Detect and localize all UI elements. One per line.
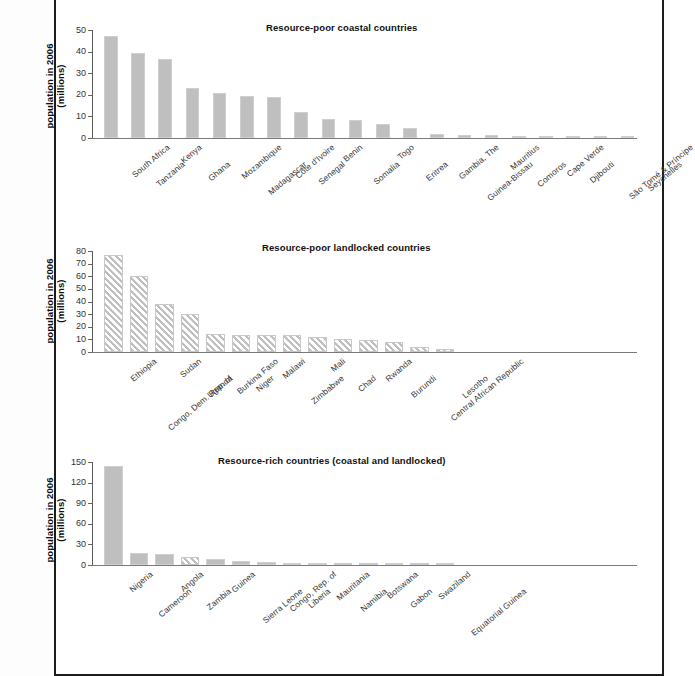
bar [349,120,363,138]
bar [403,128,417,138]
y-axis-tick-label: 60 [56,519,86,528]
y-axis-tick-label: 30 [56,310,86,319]
bar [267,97,281,138]
x-axis-line [92,138,637,139]
x-axis-label: Djibouti [588,159,616,185]
y-axis-tick-label: 40 [56,297,86,306]
plot-area: 0306090120150 [92,462,637,565]
x-axis-label: Gabon [408,586,434,610]
x-axis-label: Mali [329,356,348,374]
bar [257,562,276,565]
x-axis-label: Ethiopia [129,356,159,384]
x-axis-label: Namibia [358,586,388,614]
bar [376,124,390,138]
bar [410,563,429,565]
y-axis-tick [88,524,92,525]
bar [385,563,404,565]
x-axis-label: Senegal [316,159,347,187]
x-axis-label: Swaziland [436,569,472,602]
x-axis-label: Uganda [205,373,234,400]
bar [257,335,276,352]
y-axis-tick-label: 90 [56,499,86,508]
y-axis-tick [88,276,92,277]
y-axis-tick [88,30,92,31]
y-axis-tick-label: 70 [56,259,86,268]
x-axis-label: Gambia, The [457,142,501,181]
bar [206,334,225,352]
y-axis-tick [88,116,92,117]
y-axis-line [92,462,93,565]
bar [213,93,227,138]
bar [130,276,149,353]
y-axis-tick-label: 10 [56,112,86,121]
bar [130,553,149,565]
bar [308,337,327,352]
y-axis-tick [88,264,92,265]
y-axis-tick [88,73,92,74]
x-axis-label: Somalia [371,159,401,187]
bar [539,136,553,138]
y-axis-tick [88,327,92,328]
bar [104,36,118,138]
bar [359,340,378,352]
bar [308,563,327,565]
bar [621,136,635,138]
x-axis-label: Zambia [204,586,232,612]
bar [240,96,254,138]
bar [181,314,200,352]
bar [359,563,378,565]
x-axis-label: Rwanda [384,356,414,384]
y-axis-label: population in 2006 (millions) [44,26,66,146]
chart-resource-poor-coastal: population in 2006 (millions) Resource-p… [0,0,668,215]
bar [485,135,499,138]
plot-area: 01020304050607080 [92,251,637,352]
y-axis-tick-label: 0 [56,134,86,143]
x-axis-labels: NigeriaCameroonAngolaZambiaGuineaSierra … [92,567,637,647]
y-axis-tick [88,462,92,463]
bar [186,88,200,138]
bar [104,466,123,565]
y-axis-tick-label: 50 [56,284,86,293]
y-axis-tick-label: 0 [56,348,86,357]
chart-resource-poor-landlocked: population in 2006 (millions) Resource-p… [0,215,668,430]
x-axis-label: Mozambique [239,142,283,181]
x-axis-label: Benin [341,142,364,164]
bar [181,557,200,565]
y-axis-tick-label: 20 [56,90,86,99]
bar [430,134,444,138]
y-axis-line [92,251,93,352]
bar [158,59,172,138]
x-axis-label: Ghana [206,159,232,183]
y-axis-tick [88,544,92,545]
y-axis-tick [88,251,92,252]
x-axis-label: Sudan [178,356,203,380]
bar [206,559,225,565]
y-axis-tick-label: 60 [56,272,86,281]
x-axis-label: Chad [356,373,378,394]
x-axis-label: Nigeria [128,569,155,594]
bar [410,347,429,352]
x-axis-label: Eritrea [424,159,450,183]
bar [594,136,608,138]
bar [131,53,145,138]
bar [458,135,472,138]
bar [283,335,302,352]
y-axis-tick-label: 20 [56,322,86,331]
bar [512,136,526,138]
x-axis-label: Guinea [230,569,258,594]
bar [283,563,302,565]
y-axis-tick [88,52,92,53]
y-axis-tick [88,95,92,96]
y-axis-tick-label: 40 [56,47,86,56]
bar [232,335,251,352]
x-axis-label: Togo [395,142,416,162]
x-axis-label: Kenya [179,142,204,165]
x-axis-label: Equatorial Guinea [469,586,528,638]
y-axis-tick-label: 80 [56,247,86,256]
bar [436,349,455,352]
chart-resource-rich: population in 2006 (millions) Resource-r… [0,428,668,643]
y-axis-tick [88,352,92,353]
bar [334,339,353,352]
y-axis-tick [88,483,92,484]
